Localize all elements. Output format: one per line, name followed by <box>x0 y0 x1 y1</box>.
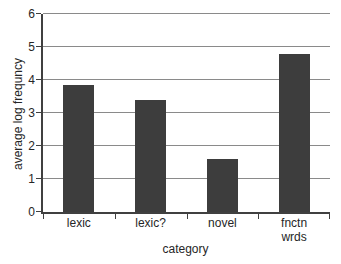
y-axis-tick <box>36 46 41 47</box>
x-tick-label-lexic: lexic <box>43 217 115 245</box>
plot-area: 0123456 lexiclexic?novelfnctn wrds <box>41 14 330 214</box>
x-tick-label-lexic: lexic? <box>115 217 187 245</box>
y-tick-label-5: 5 <box>28 41 35 53</box>
x-axis-tick-labels: lexiclexic?novelfnctn wrds <box>43 217 330 245</box>
x-axis-title: category <box>41 242 330 256</box>
x-tick-label-fnctn-wrds: fnctn wrds <box>258 217 330 245</box>
y-axis-tick <box>36 178 41 179</box>
y-axis-title: average log frequncy <box>11 58 25 170</box>
y-tick-label-2: 2 <box>28 140 35 152</box>
bar-chart-figure: average log frequncy 0123456 lexiclexic?… <box>0 0 341 264</box>
y-axis-tick <box>36 145 41 146</box>
y-axis-tick <box>36 211 41 212</box>
y-tick-label-4: 4 <box>28 74 35 86</box>
y-axis-tick <box>36 79 41 80</box>
y-tick-label-1: 1 <box>28 173 35 185</box>
y-axis-tick <box>36 112 41 113</box>
x-tick-label-novel: novel <box>187 217 259 245</box>
y-tick-label-6: 6 <box>28 8 35 20</box>
y-axis-tick <box>36 13 41 14</box>
ticks-layer: 0123456 <box>43 14 330 212</box>
y-tick-label-3: 3 <box>28 107 35 119</box>
y-tick-label-0: 0 <box>28 206 35 218</box>
